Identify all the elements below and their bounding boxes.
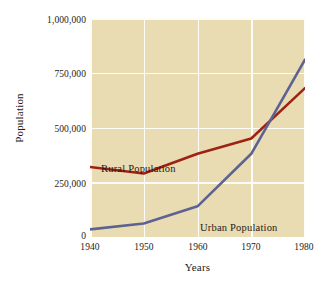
plot-area: Rural Population Urban Population xyxy=(90,18,305,237)
y-axis-tick-label: 0 xyxy=(4,231,86,241)
x-axis-tick-label: 1960 xyxy=(176,242,220,252)
y-axis-title: Population xyxy=(13,73,25,163)
series-container xyxy=(90,18,305,237)
x-axis-tick-label: 1970 xyxy=(229,242,273,252)
x-axis-title: Years xyxy=(90,261,305,273)
x-axis-tick-label: 1940 xyxy=(68,242,112,252)
series-line-rural-population xyxy=(90,88,305,173)
series-label-rural-population: Rural Population xyxy=(101,163,176,174)
y-axis-tick-label: 1,000,000 xyxy=(4,15,86,25)
series-label-urban-population: Urban Population xyxy=(200,222,278,233)
x-axis-tick-label: 1980 xyxy=(282,242,321,252)
series-line-urban-population xyxy=(90,60,305,230)
population-line-chart: 1,000,000 750,000 500,000 250,000 0 Popu… xyxy=(0,0,321,291)
y-axis-tick-label: 250,000 xyxy=(4,179,86,189)
x-axis-tick-label: 1950 xyxy=(122,242,166,252)
